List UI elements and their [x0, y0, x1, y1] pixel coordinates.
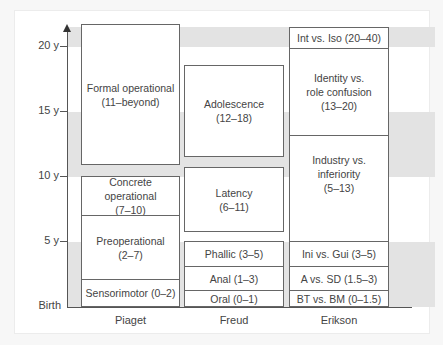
piaget-formal-operational: Formal operational (11–beyond) [81, 24, 180, 165]
freud-oral: Oral (0–1) [184, 290, 284, 307]
tick-10 [60, 176, 67, 177]
y-axis-line [67, 30, 68, 308]
erikson-industry-vs-inferiority: Industry vs. inferiority (5–13) [289, 135, 389, 242]
column-label-erikson: Erikson [289, 314, 389, 326]
erikson-initiative-vs-guilt: Ini vs. Gui (3–5) [289, 241, 389, 267]
tick-20 [60, 46, 67, 47]
piaget-preoperational: Preoperational (2–7) [81, 215, 180, 280]
piaget-concrete-operational: Concrete operational (7–10) [81, 176, 180, 216]
tick-label-birth: Birth [38, 299, 61, 311]
tick-label-20: 20 y [38, 39, 59, 51]
tick-label-5: 5 y [44, 234, 59, 246]
x-axis-baseline [67, 307, 412, 308]
freud-adolescence: Adolescence (12–18) [184, 65, 284, 157]
tick-5 [60, 241, 67, 242]
erikson-intimacy-vs-isolation: Int vs. Iso (20–40) [289, 27, 389, 49]
column-label-piaget: Piaget [81, 314, 180, 326]
freud-anal: Anal (1–3) [184, 266, 284, 291]
tick-label-15: 15 y [38, 104, 59, 116]
piaget-sensorimotor: Sensorimotor (0–2) [81, 279, 180, 307]
tick-label-10: 10 y [38, 169, 59, 181]
erikson-trust-vs-mistrust: BT vs. BM (0–1.5) [289, 290, 389, 307]
erikson-identity-vs-role-confusion: Identity vs. role confusion (13–20) [289, 48, 389, 136]
arrow-up-icon [63, 24, 71, 32]
freud-phallic: Phallic (3–5) [184, 241, 284, 267]
tick-15 [60, 111, 67, 112]
freud-latency: Latency (6–11) [184, 167, 284, 232]
erikson-autonomy-vs-shame: A vs. SD (1.5–3) [289, 266, 389, 291]
column-label-freud: Freud [184, 314, 284, 326]
